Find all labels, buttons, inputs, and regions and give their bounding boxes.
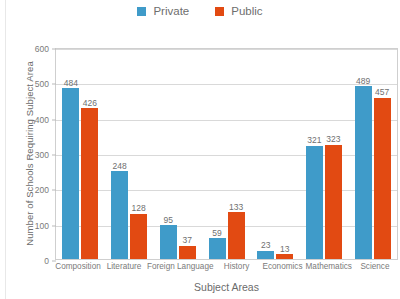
bar-private-composition[interactable]: 484 [62,88,79,259]
bar-public-literature[interactable]: 128 [130,214,147,259]
bar-groups: 4844262481289537591332313321323489457 [56,49,397,259]
bar-private-literature[interactable]: 248 [111,171,128,259]
x-axis-title: Subject Areas [55,281,398,293]
plot-area: 0100200300400500600 48442624812895375913… [55,48,398,260]
legend-swatch-public [215,7,224,16]
bar-group: 248128 [105,49,154,259]
bar-group: 59133 [202,49,251,259]
x-tick-label-science: Science [352,262,398,271]
bar-public-history[interactable]: 133 [228,212,245,259]
bar-chart: Private Public Number of Schools Requiri… [0,0,400,299]
bar-value-label: 323 [326,135,340,144]
x-tick-label-composition: Composition [55,262,101,271]
image-edge-line [5,0,6,299]
x-axis-tick-labels: CompositionLiteratureForeign LanguageHis… [55,262,398,271]
legend-item-public[interactable]: Public [215,6,262,18]
legend-swatch-private [137,7,146,16]
x-tick-label-economics: Economics [260,262,306,271]
bar-public-foreign-language[interactable]: 37 [179,246,196,259]
x-tick-label-mathematics: Mathematics [306,262,352,271]
bar-public-composition[interactable]: 426 [81,108,98,259]
bar-group: 2313 [251,49,300,259]
bar-public-mathematics[interactable]: 323 [325,145,342,259]
bar-value-label: 133 [229,203,243,212]
bar-value-label: 37 [183,236,192,245]
bar-private-mathematics[interactable]: 321 [306,146,323,259]
bar-value-label: 13 [280,245,289,254]
bar-value-label: 426 [83,99,97,108]
bar-group: 489457 [348,49,397,259]
bar-private-foreign-language[interactable]: 95 [160,225,177,259]
legend-item-private[interactable]: Private [137,6,189,18]
bar-group: 321323 [300,49,349,259]
bar-value-label: 128 [131,204,145,213]
bar-group: 9537 [153,49,202,259]
bar-value-label: 489 [356,77,370,86]
bar-private-economics[interactable]: 23 [257,251,274,259]
bar-private-history[interactable]: 59 [209,238,226,259]
bar-group: 484426 [56,49,105,259]
bar-value-label: 321 [307,136,321,145]
bar-public-science[interactable]: 457 [374,98,391,259]
chart-legend: Private Public [0,6,400,18]
y-axis-title: Number of Schools Requiring Subject Area [24,39,35,269]
bar-value-label: 95 [164,216,173,225]
bar-value-label: 248 [112,162,126,171]
bar-public-economics[interactable]: 13 [276,254,293,259]
bar-private-science[interactable]: 489 [355,86,372,259]
legend-label-public: Public [231,6,262,18]
bar-value-label: 59 [212,229,221,238]
bar-value-label: 457 [375,88,389,97]
x-tick-label-literature: Literature [101,262,147,271]
x-tick-label-history: History [214,262,260,271]
bar-value-label: 484 [64,79,78,88]
x-tick-label-foreign-language: Foreign Language [147,262,213,271]
bar-value-label: 23 [261,241,270,250]
legend-label-private: Private [153,6,189,18]
